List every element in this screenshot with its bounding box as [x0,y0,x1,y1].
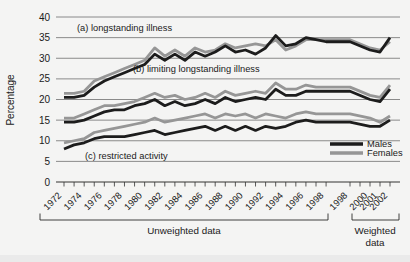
x-axis: 1972197419761978198019821984198619881990… [42,182,390,212]
x-tick-label: 1994 [263,190,285,212]
series-lines [64,36,390,149]
annotation-longstanding-illness: (a) longstanding illness [77,23,172,33]
x-tick-label: 1988 [203,190,225,212]
legend: Males Females [330,139,403,158]
x-tick-label: 1980 [122,190,144,212]
x-tick-label: 1992 [243,190,265,212]
legend-females-label: Females [367,148,403,158]
x-tick-label: 1984 [163,190,185,212]
y-axis-tick-labels: 0510152025303540 [39,12,51,188]
x-tick-label: 1990 [223,190,245,212]
x-tick-label: 1998 [328,190,350,212]
x-tick-label: 1976 [82,190,104,212]
figure: 0510152025303540 Percentage (a) longstan… [0,0,410,262]
x-tick-label: 1972 [42,190,64,212]
trends-line-chart: 0510152025303540 Percentage (a) longstan… [0,0,410,262]
y-tick-label: 10 [39,135,51,146]
x-tick-label: 1996 [284,190,306,212]
y-axis-title: Percentage [5,74,16,126]
weighted-bracket [352,214,399,221]
y-tick-label: 5 [44,156,50,167]
annotation-restricted-activity: (c) restricted activity [85,151,168,161]
annotation-limiting-longstanding-illness: (b) limiting longstanding illness [133,64,260,74]
y-tick-label: 15 [39,115,51,126]
x-tick-label: 1986 [183,190,205,212]
page-bottom-shadow [0,255,410,262]
y-tick-label: 0 [44,177,50,188]
x-tick-label: 1974 [62,190,84,212]
y-tick-label: 25 [39,73,51,84]
y-tick-label: 20 [39,94,51,105]
x-tick-label: 1998 [304,190,326,212]
y-tick-label: 30 [39,53,51,64]
weighted-data-label-line2: data [365,237,385,248]
y-tick-label: 40 [39,12,51,23]
axis-section-brackets: Unweighted data Weighted data [40,214,399,249]
unweighted-data-label: Unweighted data [147,225,221,236]
unweighted-bracket [40,214,328,221]
weighted-data-label-line1: Weighted [354,225,395,236]
x-tick-label: 1982 [143,190,165,212]
y-tick-label: 35 [39,32,51,43]
x-tick-label: 1978 [102,190,124,212]
